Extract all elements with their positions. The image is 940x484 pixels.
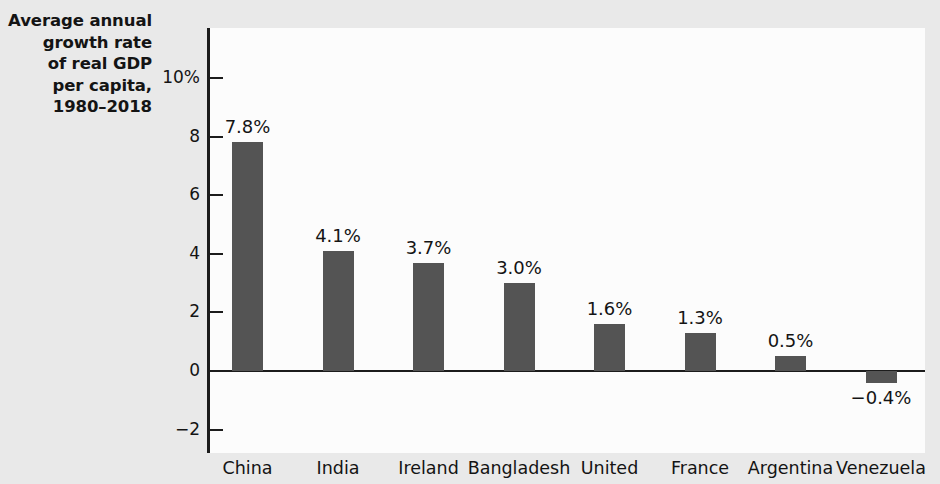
- bar: [232, 142, 263, 371]
- y-axis-tick-labels: 10%86420−2: [146, 0, 200, 484]
- bar-value-label: 0.5%: [751, 332, 831, 350]
- axis-title-line-1: Average annual: [0, 10, 152, 32]
- y-tick-mark: [210, 311, 223, 313]
- y-tick-label: 6: [146, 186, 200, 203]
- bar-chart-figure: Average annual growth rate of real GDP p…: [0, 0, 940, 484]
- bar: [594, 324, 625, 371]
- y-tick-label: 10%: [146, 69, 200, 86]
- bar-value-label: −0.4%: [841, 389, 921, 407]
- bar: [323, 251, 354, 371]
- y-tick-mark: [210, 429, 223, 431]
- axis-title-line-5: 1980–2018: [0, 96, 152, 118]
- x-axis-zero-line: [207, 370, 925, 372]
- y-tick-label: 0: [146, 362, 200, 379]
- y-axis-line: [207, 28, 210, 453]
- y-tick-label: 2: [146, 303, 200, 320]
- bar-value-label: 7.8%: [208, 118, 288, 136]
- bar: [504, 283, 535, 371]
- y-tick-label: 8: [146, 128, 200, 145]
- bar-value-label: 1.6%: [570, 300, 650, 318]
- bar: [866, 371, 897, 383]
- bar-value-label: 4.1%: [298, 227, 378, 245]
- axis-title-line-2: growth rate: [0, 32, 152, 54]
- y-tick-mark: [210, 77, 223, 79]
- y-tick-mark: [210, 370, 223, 372]
- bar-value-label: 3.7%: [389, 239, 469, 257]
- x-category-label: Venezuela: [821, 458, 940, 478]
- y-tick-mark: [210, 194, 223, 196]
- bar-value-label: 3.0%: [479, 259, 559, 277]
- chart-axis-title: Average annual growth rate of real GDP p…: [0, 10, 152, 118]
- bar: [413, 263, 444, 371]
- y-tick-label: 4: [146, 245, 200, 262]
- y-tick-mark: [210, 253, 223, 255]
- bar-value-label: 1.3%: [660, 309, 740, 327]
- y-tick-label: −2: [146, 421, 200, 438]
- axis-title-line-4: per capita,: [0, 75, 152, 97]
- bar: [775, 356, 806, 371]
- bar: [685, 333, 716, 371]
- axis-title-line-3: of real GDP: [0, 53, 152, 75]
